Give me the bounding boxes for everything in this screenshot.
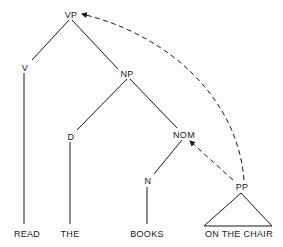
node-v: V bbox=[22, 63, 28, 73]
leaf-books: BOOKS bbox=[130, 229, 164, 239]
arrow-pp-to-vp bbox=[82, 14, 244, 180]
edge-vp-v bbox=[32, 20, 69, 60]
node-pp: PP bbox=[236, 182, 249, 192]
node-vp: VP bbox=[65, 10, 78, 20]
triangle-pp bbox=[204, 193, 272, 226]
edge-np-nom bbox=[130, 79, 177, 128]
tree-canvas: VP V NP D NOM N PP READ THE BOOKS ON THE… bbox=[0, 0, 283, 247]
arrow-pp-to-nom bbox=[190, 141, 233, 180]
syntax-tree-diagram: VP V NP D NOM N PP READ THE BOOKS ON THE… bbox=[0, 0, 283, 247]
node-np: NP bbox=[120, 69, 133, 79]
node-d: D bbox=[68, 132, 75, 142]
leaf-read: READ bbox=[14, 229, 40, 239]
leaf-the: THE bbox=[61, 229, 80, 239]
node-n: N bbox=[145, 176, 152, 186]
edge-vp-np bbox=[72, 20, 118, 69]
edge-np-d bbox=[77, 79, 127, 130]
node-nom: NOM bbox=[173, 130, 195, 140]
edge-nom-n bbox=[154, 140, 182, 174]
leaf-on-the-chair: ON THE CHAIR bbox=[205, 229, 273, 239]
